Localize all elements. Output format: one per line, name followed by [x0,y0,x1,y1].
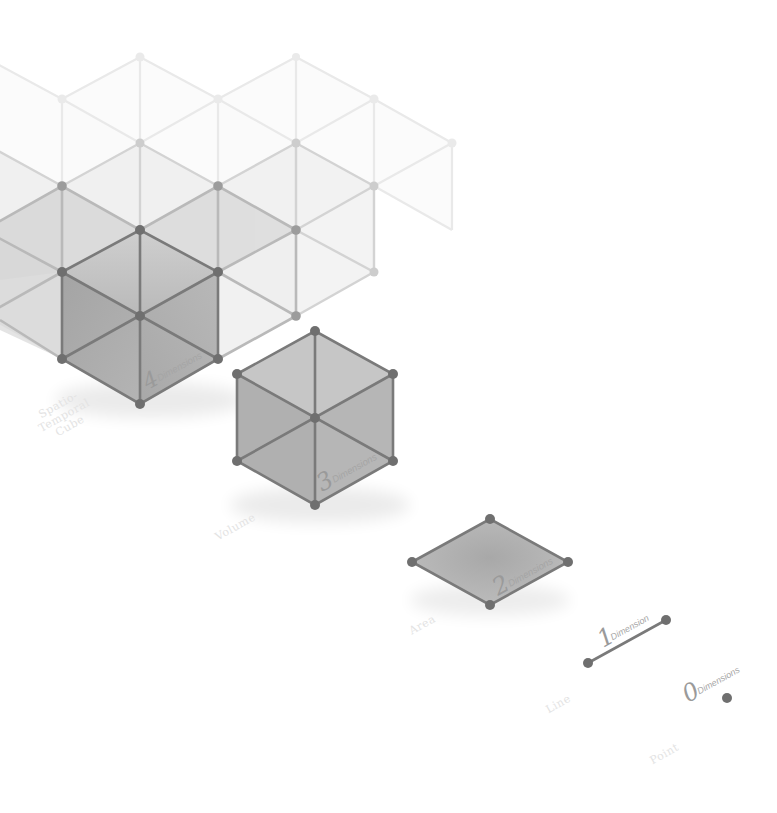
caption-text: Volume [212,511,258,544]
caption-text: Line [544,692,573,716]
caption-volume: Volume [212,511,258,544]
caption-line: Line [544,692,573,716]
point-0d: 0 Dimensions [677,654,744,708]
point-0d-label: 0 Dimensions [677,654,744,708]
line-1d: 1 Dimension [583,602,671,668]
caption-area: Area [406,612,438,638]
dimensions-diagram: 4 Dimensions 3 Dimensions [0,0,777,813]
caption-text: Area [406,612,438,638]
caption-text: Point [648,741,682,767]
line-1d-label: 1 Dimension [592,602,653,653]
dimension-unit: Dimensions [695,664,741,696]
cube-3d: 3 Dimensions [230,326,410,523]
caption-point: Point [648,741,682,767]
area-2d: 2 Dimensions [407,514,573,616]
dimension-unit: Dimension [609,613,651,642]
